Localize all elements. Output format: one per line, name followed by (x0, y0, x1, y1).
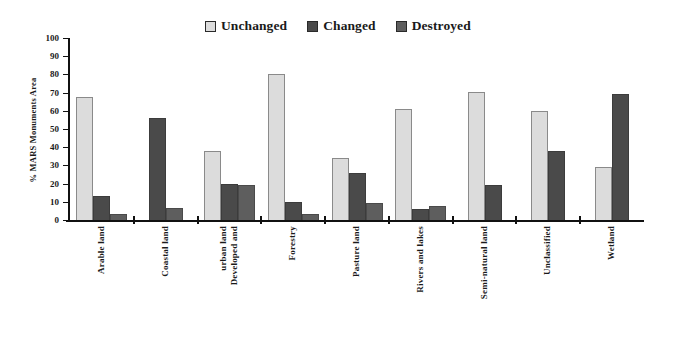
x-axis-line (66, 220, 644, 222)
category-label-inner: Coastal land (161, 226, 170, 338)
legend-label: Unchanged (221, 19, 287, 33)
bar-group (198, 38, 262, 220)
y-tick-label: 0 (55, 216, 60, 225)
y-tick-70: 70 (63, 93, 68, 94)
bar-destroyed[interactable] (238, 185, 255, 220)
y-tick-label: 70 (50, 88, 59, 97)
plot-area: 1009080706050403020100 (68, 38, 644, 220)
y-axis-title: % MARS Monuments Area (24, 40, 42, 220)
x-axis-group-tick (324, 216, 326, 224)
y-tick-100: 100 (63, 38, 68, 39)
bar-unchanged[interactable] (395, 109, 412, 220)
y-tick-10: 10 (63, 202, 68, 203)
bar-destroyed[interactable] (366, 203, 383, 220)
x-axis-group-tick (515, 216, 517, 224)
y-tick-20: 20 (63, 184, 68, 185)
y-tick-80: 80 (63, 74, 68, 75)
legend-entry-destroyed[interactable]: Destroyed (396, 19, 471, 33)
bar-changed[interactable] (221, 184, 238, 220)
y-tick-label: 10 (50, 197, 59, 206)
category-label-line: Pasture land (352, 226, 361, 277)
bar-unchanged[interactable] (468, 92, 485, 220)
chart-legend: UnchangedChangedDestroyed (205, 16, 471, 36)
y-tick-label: 100 (46, 34, 60, 43)
bar-group (134, 38, 198, 220)
legend-entry-changed[interactable]: Changed (307, 19, 375, 33)
x-axis-group-tick (579, 216, 581, 224)
bar-group (261, 38, 325, 220)
category-label-line: Coastal land (161, 226, 170, 277)
x-axis-group-tick (133, 216, 135, 224)
category-label-coastal-land: Coastal land (134, 226, 198, 338)
legend-swatch-icon (307, 21, 318, 32)
bar-unchanged[interactable] (268, 74, 285, 221)
category-label-line: Developed and (230, 226, 239, 285)
bar-chart: UnchangedChangedDestroyed % MARS Monumen… (0, 0, 682, 340)
bar-changed[interactable] (349, 173, 366, 220)
category-label-arable-land: Arable land (70, 226, 134, 338)
bar-changed[interactable] (485, 185, 502, 220)
y-tick-50: 50 (63, 129, 68, 130)
y-tick-60: 60 (63, 111, 68, 112)
bar-changed[interactable] (412, 209, 429, 220)
y-tick-40: 40 (63, 147, 68, 148)
category-label-forestry: Forestry (261, 226, 325, 338)
y-tick-label: 40 (50, 143, 59, 152)
category-label-line: Rivers and lakes (416, 226, 425, 293)
bar-unchanged[interactable] (332, 158, 349, 220)
bar-unchanged[interactable] (531, 111, 548, 220)
legend-entry-unchanged[interactable]: Unchanged (205, 19, 287, 33)
category-label-line: Arable land (97, 226, 106, 274)
legend-label: Changed (323, 19, 375, 33)
category-label-pasture-land: Pasture land (325, 226, 389, 338)
bar-changed[interactable] (93, 196, 110, 220)
y-tick-label: 60 (50, 106, 59, 115)
legend-label: Destroyed (412, 19, 471, 33)
category-label-inner: Rivers and lakes (416, 226, 425, 338)
category-label-line: Semi-natural land (480, 226, 489, 299)
x-axis-category-labels: Arable landCoastal landDeveloped andurba… (70, 226, 644, 338)
bar-changed[interactable] (149, 118, 166, 220)
y-tick-0: 0 (63, 220, 68, 221)
y-tick-90: 90 (63, 56, 68, 57)
category-label-line: Forestry (289, 226, 298, 260)
bar-destroyed[interactable] (110, 214, 127, 220)
category-label-wetland: Wetland (580, 226, 644, 338)
category-label-inner: Unclassified (544, 226, 553, 338)
legend-swatch-icon (205, 21, 216, 32)
legend-swatch-icon (396, 21, 407, 32)
category-label-inner: Pasture land (352, 226, 361, 338)
category-label-developed-and-urban-land: Developed andurban land (198, 226, 262, 338)
category-label-inner: Arable land (97, 226, 106, 338)
bar-changed[interactable] (548, 151, 565, 220)
bar-unchanged[interactable] (76, 97, 93, 220)
category-label-rivers-and-lakes: Rivers and lakes (389, 226, 453, 338)
category-label-line: urban land (220, 226, 229, 271)
category-label-inner: Semi-natural land (480, 226, 489, 338)
y-tick-label: 90 (50, 52, 59, 61)
bar-destroyed[interactable] (302, 214, 319, 220)
y-tick-30: 30 (63, 165, 68, 166)
category-label-inner: Wetland (607, 226, 616, 338)
bar-changed[interactable] (612, 94, 629, 220)
bar-unchanged[interactable] (204, 151, 221, 220)
bar-group (70, 38, 134, 220)
y-tick-label: 80 (50, 70, 59, 79)
bar-unchanged[interactable] (595, 167, 612, 220)
category-label-line: Unclassified (544, 226, 553, 275)
bar-destroyed[interactable] (166, 208, 183, 220)
bar-group (580, 38, 644, 220)
bar-destroyed[interactable] (429, 206, 446, 220)
y-tick-label: 20 (50, 179, 59, 188)
x-axis-group-tick (260, 216, 262, 224)
bar-group (453, 38, 517, 220)
x-axis-group-tick (388, 216, 390, 224)
x-axis-group-tick (197, 216, 199, 224)
bar-changed[interactable] (285, 202, 302, 220)
category-label-inner: Developed andurban land (220, 226, 240, 338)
category-label-line: Wetland (607, 226, 616, 260)
category-label-unclassified: Unclassified (516, 226, 580, 338)
y-axis-title-text: % MARS Monuments Area (28, 78, 38, 183)
bar-groups (70, 38, 644, 220)
category-label-semi-natural-land: Semi-natural land (453, 226, 517, 338)
